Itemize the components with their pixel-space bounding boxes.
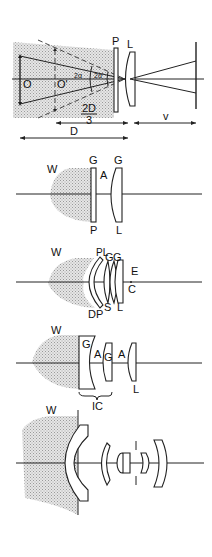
label-2D: 2D [82, 102, 96, 114]
label-W: W [47, 163, 58, 175]
lens [128, 343, 136, 381]
lens [115, 260, 123, 303]
label-D: D [70, 125, 78, 137]
panel-5-wide-dome: W [16, 404, 204, 515]
optics-figure: O O' 2α 2α' P L 2D 3 v D W G A G P L [0, 0, 212, 557]
label-A: A [94, 348, 102, 360]
panel-4-corrector: W G A G A L IC [16, 324, 202, 412]
label-W: W [46, 404, 57, 416]
label-W: W [51, 324, 62, 336]
element-3 [123, 453, 130, 473]
label-A: A [100, 169, 108, 181]
label-G: G [113, 251, 122, 263]
label-angle-inner: 2α' [94, 72, 103, 79]
label-angle-outer: 2α [74, 72, 82, 79]
label-IC: IC [92, 400, 103, 412]
flat-port [91, 168, 96, 222]
label-O: O [23, 78, 32, 90]
label-L: L [127, 38, 133, 50]
label-A: A [118, 348, 126, 360]
label-W: W [51, 246, 62, 258]
label-L: L [116, 224, 122, 236]
label-G: G [104, 351, 113, 363]
label-v: v [163, 110, 169, 122]
element-1 [102, 443, 111, 485]
panel-1-geometry: O O' 2α 2α' P L 2D 3 v D [12, 35, 204, 140]
label-P: P [90, 224, 97, 236]
lens [111, 168, 122, 222]
label-P: P [112, 35, 119, 47]
label-G: G [114, 154, 123, 166]
label-L: L [117, 301, 123, 313]
label-L: L [133, 383, 139, 395]
panel-3-dome-port: W PL G G E C DP S L [16, 246, 202, 320]
ic-brace [79, 392, 112, 400]
label-E: E [131, 265, 138, 277]
element-S [104, 261, 110, 303]
label-S: S [104, 301, 111, 313]
label-C: C [128, 283, 136, 295]
label-DP: DP [88, 308, 103, 320]
label-3: 3 [86, 114, 92, 126]
label-O-prime: O' [57, 78, 68, 90]
label-G: G [82, 338, 91, 350]
panel-2-flat-port: W G A G P L [16, 154, 202, 236]
label-G: G [89, 154, 98, 166]
flat-port [114, 48, 118, 112]
